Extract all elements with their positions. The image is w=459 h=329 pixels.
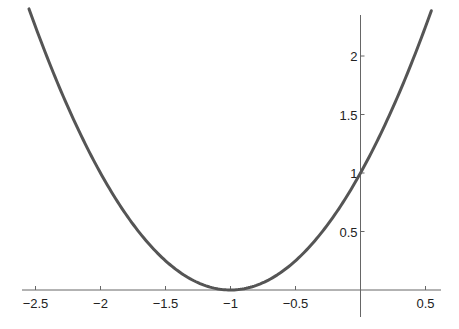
y-tick-label: 0.5 (339, 225, 357, 240)
parabola-plot: −2.5−2−1.5−1−0.50.50.511.52 (0, 0, 459, 329)
tick-marks (36, 56, 426, 290)
x-tick-label: −0.5 (283, 296, 309, 311)
x-tick-label: −1.5 (153, 296, 179, 311)
tick-labels: −2.5−2−1.5−1−0.50.50.511.52 (23, 49, 435, 311)
x-tick-label: −1 (223, 296, 238, 311)
x-tick-label: −2.5 (23, 296, 49, 311)
axes (22, 15, 441, 317)
y-tick-label: 2 (350, 49, 357, 64)
x-tick-label: 0.5 (416, 296, 434, 311)
y-tick-label: 1.5 (339, 108, 357, 123)
x-tick-label: −2 (93, 296, 108, 311)
parabola-curve (29, 9, 431, 290)
